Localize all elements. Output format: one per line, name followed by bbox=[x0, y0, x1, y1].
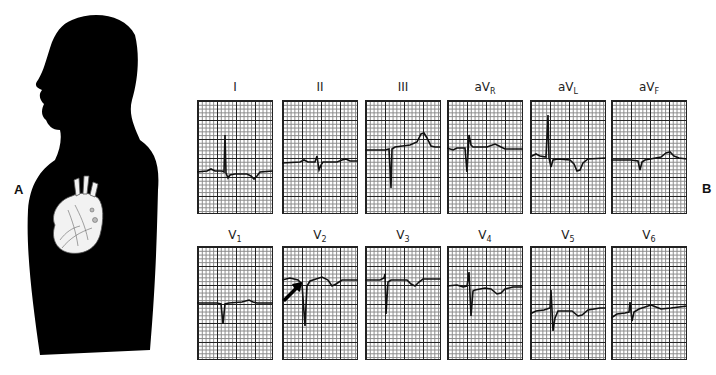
ecg-panel-v5 bbox=[530, 246, 606, 360]
lead-title-v4: V4 bbox=[447, 228, 523, 244]
ecg-panel-iii bbox=[365, 100, 441, 214]
ecg-panel-i bbox=[197, 100, 273, 214]
ecg-panel-avf bbox=[611, 100, 687, 214]
lead-title-v3: V3 bbox=[365, 228, 441, 244]
lead-title-avr: aVR bbox=[447, 80, 523, 96]
ecg-trace bbox=[365, 246, 441, 360]
ecg-panel-v4 bbox=[447, 246, 523, 360]
ecg-trace bbox=[447, 100, 523, 214]
torso-silhouette bbox=[0, 0, 200, 375]
lead-title-v6: V6 bbox=[611, 228, 687, 244]
ecg-panel-v1 bbox=[197, 246, 273, 360]
lead-title-v5: V5 bbox=[530, 228, 606, 244]
lead-title-ii: II bbox=[282, 80, 358, 96]
ecg-panel-ii bbox=[282, 100, 358, 214]
ecg-trace bbox=[447, 246, 523, 360]
lead-title-v2: V2 bbox=[282, 228, 358, 244]
ecg-panel-v6 bbox=[611, 246, 687, 360]
figure-label-a: A bbox=[14, 182, 23, 197]
ecg-trace bbox=[197, 100, 273, 214]
lead-title-avf: aVF bbox=[611, 80, 687, 96]
lead-title-v1: V1 bbox=[197, 228, 273, 244]
ecg-trace bbox=[197, 246, 273, 360]
lead-title-i: I bbox=[197, 80, 273, 96]
lead-title-iii: III bbox=[365, 80, 441, 96]
ecg-trace bbox=[611, 246, 687, 360]
arrow-annotation-icon bbox=[282, 246, 358, 360]
ecg-trace bbox=[282, 100, 358, 214]
ecg-panel-avr bbox=[447, 100, 523, 214]
ecg-trace bbox=[611, 100, 687, 214]
figure-label-b: B bbox=[702, 181, 711, 196]
lead-title-avl: aVL bbox=[530, 80, 606, 96]
ecg-panel-v2 bbox=[282, 246, 358, 360]
ecg-trace bbox=[530, 246, 606, 360]
ecg-trace bbox=[530, 100, 606, 214]
ecg-panel-avl bbox=[530, 100, 606, 214]
ecg-panel-v3 bbox=[365, 246, 441, 360]
ecg-trace bbox=[365, 100, 441, 214]
